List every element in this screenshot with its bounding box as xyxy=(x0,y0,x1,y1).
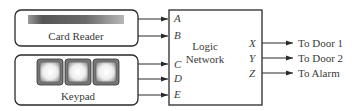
output-target-alarm: To Alarm xyxy=(298,67,340,79)
logic-label-line2: Network xyxy=(186,53,225,65)
output-label-z: Z xyxy=(249,67,256,79)
input-label-a: A xyxy=(173,12,181,24)
card-reader-block: Card Reader xyxy=(15,10,138,46)
input-label-b: B xyxy=(174,29,181,41)
keypad-keys xyxy=(37,59,119,85)
input-label-c: C xyxy=(174,58,182,70)
keypad-label: Keypad xyxy=(61,90,96,102)
card-reader-label: Card Reader xyxy=(48,30,104,42)
output-target-door1: To Door 1 xyxy=(298,37,343,49)
input-label-e: E xyxy=(173,88,181,100)
output-target-door2: To Door 2 xyxy=(298,52,343,64)
card-slot-stripe xyxy=(28,15,124,24)
input-label-d: D xyxy=(173,72,182,84)
output-label-x: X xyxy=(248,37,257,49)
logic-diagram: Card Reader Keypad Logic Network A B C D… xyxy=(0,0,361,111)
logic-label-line1: Logic xyxy=(192,40,218,52)
logic-network-block: Logic Network A B C D E X Y Z xyxy=(169,10,262,105)
input-arrows xyxy=(138,19,168,95)
keypad-block: Keypad xyxy=(15,55,138,105)
output-arrows xyxy=(262,43,293,73)
